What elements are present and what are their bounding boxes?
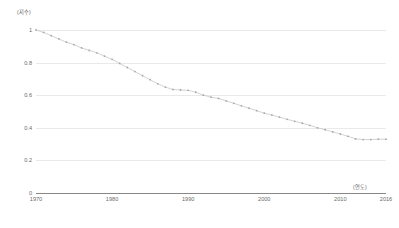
data-point-marker (66, 41, 68, 43)
data-point-marker (256, 110, 258, 112)
data-point-marker (134, 71, 136, 73)
y-axis-tick-labels: 00.20.40.60.81 (0, 30, 32, 193)
data-point-marker (286, 118, 288, 120)
data-point-marker (119, 63, 121, 65)
data-point-marker (225, 100, 227, 102)
data-point-marker (195, 91, 197, 93)
x-tick-label: 1980 (106, 196, 118, 202)
data-point-marker (149, 79, 151, 81)
data-point-marker (142, 75, 144, 77)
y-tick-label: 0.6 (24, 92, 32, 98)
series-line-group (36, 30, 386, 193)
data-point-marker (355, 138, 357, 140)
x-axis-tick-labels: 197019801990200020102016 (36, 196, 386, 208)
data-point-marker (279, 116, 281, 118)
line-chart: (지수) 00.20.40.60.81 19701980199020002010… (0, 0, 399, 228)
data-point-marker (81, 47, 83, 49)
data-point-marker (88, 49, 90, 51)
plot-area (36, 30, 386, 193)
data-point-marker (104, 55, 106, 57)
data-point-marker (187, 89, 189, 91)
data-point-marker (126, 67, 128, 69)
x-axis-unit-label: (연도) (353, 183, 367, 190)
data-point-marker (301, 122, 303, 124)
data-point-marker (385, 138, 387, 140)
data-point-marker (317, 127, 319, 129)
data-point-marker (332, 131, 334, 133)
data-point-marker (324, 129, 326, 131)
data-point-marker (309, 124, 311, 126)
y-tick-label: 0.2 (24, 157, 32, 163)
data-point-marker (241, 105, 243, 107)
x-tick-label: 2016 (380, 196, 392, 202)
x-tick-label: 1970 (30, 196, 42, 202)
data-point-marker (43, 32, 45, 34)
data-point-marker (180, 89, 182, 91)
x-tick-label: 2010 (334, 196, 346, 202)
data-point-marker (377, 138, 379, 140)
data-point-marker (218, 98, 220, 100)
data-point-marker (263, 112, 265, 114)
data-point-marker (35, 29, 37, 31)
data-point-marker (370, 139, 372, 141)
data-point-marker (248, 107, 250, 109)
data-point-marker (233, 102, 235, 104)
x-tick-label: 1990 (182, 196, 194, 202)
data-point-marker (347, 135, 349, 137)
y-tick-label: 0.4 (24, 125, 32, 131)
data-point-marker (164, 86, 166, 88)
data-point-marker (271, 114, 273, 116)
data-point-marker (202, 94, 204, 96)
data-point-marker (111, 58, 113, 60)
data-point-marker (50, 35, 52, 37)
x-axis-line (36, 193, 386, 194)
y-tick-label: 1 (29, 27, 32, 33)
data-point-marker (58, 38, 60, 40)
y-axis-unit-label: (지수) (17, 8, 31, 15)
x-tick-label: 2000 (258, 196, 270, 202)
data-point-marker (172, 89, 174, 91)
data-point-marker (96, 52, 98, 54)
data-point-marker (294, 120, 296, 122)
data-point-marker (339, 133, 341, 135)
data-point-marker (157, 83, 159, 85)
data-point-marker (210, 96, 212, 98)
data-point-marker (73, 44, 75, 46)
series-line (36, 30, 386, 140)
y-tick-label: 0.8 (24, 60, 32, 66)
data-point-marker (362, 139, 364, 141)
